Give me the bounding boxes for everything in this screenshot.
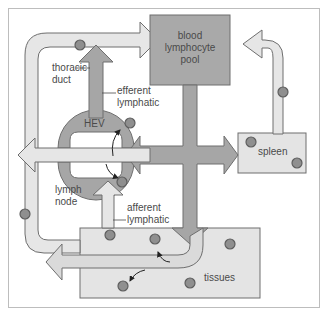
blood-pool-label: blood lymphocyte pool [158,30,222,66]
afferent-lymphatic-label: afferent lymphatic [127,202,169,226]
cell-thoracic [75,40,85,50]
cell-spleen-2 [292,158,302,168]
efferent-line-1: efferent [117,85,159,97]
efferent-line-2: lymphatic [117,97,159,109]
thoracic-line-1: thoracic [52,62,87,74]
cell-afferent [105,230,115,240]
efferent-lymphatic-label: efferent lymphatic [117,85,159,109]
thoracic-duct-label: thoracic duct [52,62,87,86]
lymph-node-line-1: lymph [55,184,82,196]
tissues-label: tissues [204,272,235,284]
blood-pool-line-3: pool [158,54,222,66]
cell-tissue-4 [185,278,195,288]
cell-hev [125,118,135,128]
cell-tissue-2 [225,239,235,249]
blood-pool-line-1: blood [158,30,222,42]
cell-tissue-1 [150,234,160,244]
afferent-line-1: afferent [127,202,169,214]
afferent-line-2: lymphatic [127,214,169,226]
thoracic-line-2: duct [52,74,87,86]
cell-right-loop [278,87,288,97]
cell-node [117,177,127,187]
spleen-label: spleen [258,146,287,158]
node-exit-arrow [106,164,118,178]
lymph-node-line-2: node [55,196,82,208]
hev-label: HEV [84,118,105,130]
cell-tissue-3 [118,281,128,291]
cell-spleen-1 [246,137,256,147]
cell-left-loop [20,209,30,219]
spleen-to-blood-arrow [243,30,283,134]
blood-pool-line-2: lymphocyte [158,42,222,54]
lymph-node-label: lymph node [55,184,82,208]
